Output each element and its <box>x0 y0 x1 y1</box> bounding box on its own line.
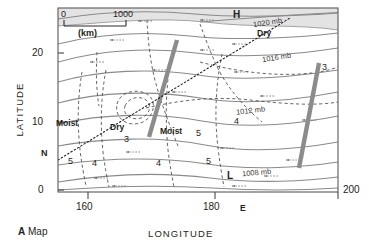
x-axis-title: LONGITUDE <box>148 228 213 239</box>
x-tick-label-180: 180 <box>203 201 220 212</box>
y-tick-label-20: 20 <box>32 47 43 58</box>
x-tick-label-200: 200 <box>343 184 360 195</box>
humidity-label-5-east: 5 <box>206 156 211 166</box>
scalebar-start-label: 0 <box>61 9 66 19</box>
y-hemisphere-label: N <box>41 148 48 158</box>
humidity-label-3-north: 3 <box>322 62 327 72</box>
y-tick-label-0: 0 <box>38 184 44 195</box>
pressure-high-marker: H <box>233 9 240 20</box>
humidity-label-4-north: 4 <box>234 116 239 126</box>
pressure-low-marker: L <box>227 170 233 181</box>
y-tick-label-10: 10 <box>32 116 43 127</box>
plot-background <box>58 8 338 192</box>
moist-label-east: Moist <box>160 126 182 136</box>
humidity-label-5-mid: 5 <box>196 128 201 138</box>
figure-caption: A Map <box>18 226 47 237</box>
caption-text: Map <box>28 226 47 237</box>
humidity-label-5-west: 5 <box>68 156 73 166</box>
figure-map: LATITUDE LONGITUDE 0 10 20 N 160 180 200… <box>0 0 369 252</box>
moist-label-west: Moist <box>56 118 78 128</box>
humidity-label-4-center: 4 <box>156 158 161 168</box>
y-axis-title: LATITUDE <box>14 72 25 148</box>
dry-label-north: Dry <box>257 28 271 38</box>
x-tick-label-160: 160 <box>76 201 93 212</box>
humidity-label-3-center: 3 <box>124 134 129 144</box>
dry-label-center: Dry <box>110 122 124 132</box>
scalebar-units-label: (km) <box>78 28 97 38</box>
humidity-label-4-west: 4 <box>92 158 97 168</box>
scalebar-end-label: 1000 <box>113 9 133 19</box>
caption-letter: A <box>18 226 25 237</box>
x-hemisphere-label: E <box>240 203 246 213</box>
